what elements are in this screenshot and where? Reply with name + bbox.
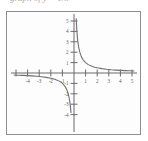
y-tick-label: -4 [64,112,69,118]
y-tick-label: -3 [64,101,69,107]
y-tick-label: 4 [66,28,69,34]
x-tick-label: 4 [119,78,122,84]
x-tick-label: -4 [25,78,30,84]
y-tick-label: 2 [66,49,69,55]
x-tick-label: 1 [84,78,87,84]
caption-strip: graph of y = 1/x [0,0,148,8]
x-tick-labels: -4 -3 -2 -1 1 2 3 4 5 [25,78,133,84]
caption-text: graph of y = 1/x [10,0,69,3]
hyperbola-plot: -4 -3 -2 -1 1 2 3 4 5 5 4 3 2 1 -1 -2 -3… [7,12,140,134]
x-tick-label: 5 [131,78,134,84]
figure-container: graph of y = 1/x [0,0,148,141]
y-tick-labels: 5 4 3 2 1 -1 -2 -3 -4 [64,18,69,118]
y-tick-label: 1 [66,60,69,66]
curve-branch-quadrant-I [76,18,134,71]
x-tick-label: 3 [108,78,111,84]
x-tick-label: -3 [37,78,42,84]
plot-frame: -4 -3 -2 -1 1 2 3 4 5 5 4 3 2 1 -1 -2 -3… [6,11,141,135]
x-tick-label: 2 [96,78,99,84]
y-tick-label: 5 [66,18,69,24]
y-tick-label: 3 [66,39,69,45]
